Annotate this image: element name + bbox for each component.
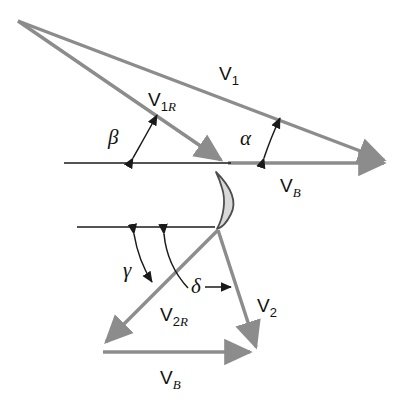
inlet-velocity-triangle: β α V1 V1R VB: [18, 21, 384, 200]
label-vb-top-subscript: B: [293, 185, 301, 200]
label-vb-top: VB: [280, 175, 301, 200]
label-v2-subscript: 2: [270, 305, 277, 320]
angle-label-gamma: γ: [123, 258, 132, 282]
angle-arc-alpha: [264, 118, 280, 158]
label-v2: V2: [257, 295, 277, 320]
label-v1r: V1R: [148, 89, 176, 114]
angle-label-alpha: α: [240, 126, 252, 150]
label-vb-bottom: VB: [160, 367, 181, 392]
blade-airfoil-shape: [216, 172, 234, 229]
label-v2r-subscript-letter: R: [179, 314, 188, 329]
angle-arc-beta: [133, 115, 157, 158]
label-v1r-subscript-num: 1: [161, 99, 168, 114]
angle-label-delta: δ: [191, 274, 202, 298]
vector-v2r: [106, 230, 218, 342]
label-vb-bottom-subscript: B: [173, 377, 181, 392]
vector-v1r: [18, 21, 221, 160]
label-v1r-main: V: [148, 89, 161, 110]
label-v2r-subscript-num: 2: [173, 314, 180, 329]
angle-label-beta: β: [107, 125, 119, 149]
label-v2-main: V: [257, 295, 270, 316]
label-vb-bottom-main: V: [160, 367, 173, 388]
label-v1-subscript: 1: [232, 73, 239, 88]
blade-cross-section: [216, 172, 234, 229]
label-v1r-subscript-letter: R: [167, 99, 176, 114]
vector-v1: [18, 21, 384, 160]
label-v1-main: V: [219, 63, 232, 84]
label-v1: V1: [219, 63, 239, 88]
label-vb-top-main: V: [280, 175, 293, 196]
diagram-canvas: β α V1 V1R VB: [0, 0, 420, 410]
vector-v2: [218, 230, 256, 347]
angle-arc-gamma: [134, 234, 152, 282]
label-v2r-main: V: [160, 304, 173, 325]
label-v2r: V2R: [160, 304, 188, 329]
velocity-triangle-diagram: β α V1 V1R VB: [0, 0, 420, 410]
outlet-velocity-triangle: γ δ V2R V2 VB: [77, 227, 277, 392]
